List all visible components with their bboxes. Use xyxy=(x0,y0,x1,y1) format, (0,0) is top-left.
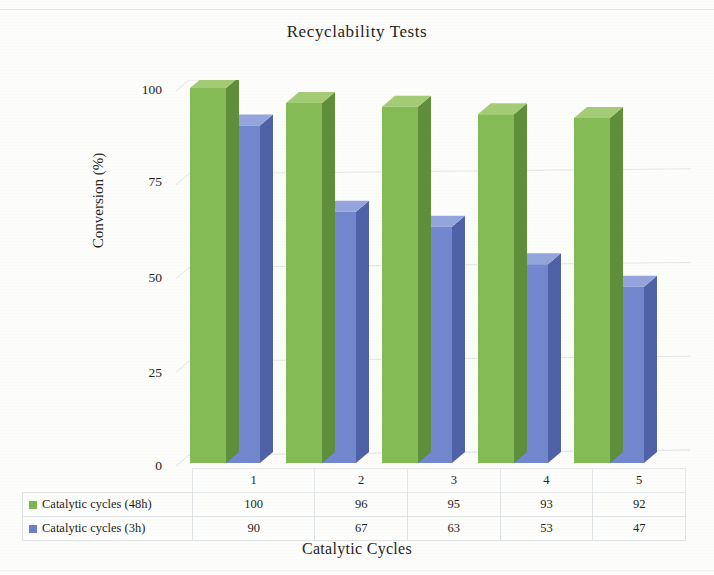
value-3h-cycle-2: 67 xyxy=(315,517,408,541)
value-3h-cycle-1: 90 xyxy=(193,517,315,541)
value-48h-cycle-3: 95 xyxy=(408,493,501,517)
value-48h-cycle-5: 92 xyxy=(593,493,686,517)
legend-label-48h: Catalytic cycles (48h) xyxy=(42,497,152,511)
y-tick-50: 50 xyxy=(118,270,162,286)
bar-48h-cycle-3[interactable] xyxy=(382,96,431,463)
value-48h-cycle-4: 93 xyxy=(500,493,593,517)
table-row: Catalytic cycles (48h) 100 96 95 93 92 xyxy=(23,493,686,517)
table-header-row: 1 2 3 4 5 xyxy=(23,469,686,493)
bar-48h-cycle-5[interactable] xyxy=(574,107,623,463)
y-tick-75: 75 xyxy=(118,174,162,190)
legend-item-3h[interactable]: Catalytic cycles (3h) xyxy=(23,517,193,541)
chart-figure: Recyclability Tests Conversion (%) Catal… xyxy=(0,0,714,575)
legend-item-48h[interactable]: Catalytic cycles (48h) xyxy=(23,493,193,517)
table-row: Catalytic cycles (3h) 90 67 63 53 47 xyxy=(23,517,686,541)
y-axis-title: Conversion (%) xyxy=(90,111,107,291)
bar-48h-cycle-2[interactable] xyxy=(286,92,335,463)
plot-area: 12345 xyxy=(176,80,696,465)
table-header-cat-1: 1 xyxy=(193,469,315,493)
value-48h-cycle-2: 96 xyxy=(315,493,408,517)
bar-chart-svg: 12345 xyxy=(176,80,696,470)
value-48h-cycle-1: 100 xyxy=(193,493,315,517)
legend-swatch-blue-icon xyxy=(29,525,37,533)
value-3h-cycle-3: 63 xyxy=(408,517,501,541)
bar-48h-cycle-1[interactable] xyxy=(190,80,239,463)
chart-title: Recyclability Tests xyxy=(0,22,714,42)
table-header-cat-5: 5 xyxy=(593,469,686,493)
table-corner xyxy=(23,469,193,493)
bar-48h-cycle-4[interactable] xyxy=(478,103,527,463)
value-3h-cycle-5: 47 xyxy=(593,517,686,541)
table-header-cat-3: 3 xyxy=(408,469,501,493)
legend-swatch-green-icon xyxy=(29,501,37,509)
gridline xyxy=(176,80,690,91)
table-header-cat-4: 4 xyxy=(500,469,593,493)
x-axis-title: Catalytic Cycles xyxy=(0,540,714,558)
data-table-legend: 1 2 3 4 5 Catalytic cycles (48h) 100 96 … xyxy=(22,468,686,541)
table-header-cat-2: 2 xyxy=(315,469,408,493)
legend-label-3h: Catalytic cycles (3h) xyxy=(42,521,145,535)
y-tick-25: 25 xyxy=(118,365,162,381)
value-3h-cycle-4: 53 xyxy=(500,517,593,541)
y-tick-100: 100 xyxy=(118,82,162,98)
